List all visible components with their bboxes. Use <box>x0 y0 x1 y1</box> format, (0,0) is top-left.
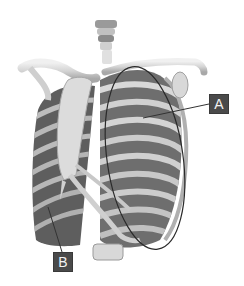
label-a: A <box>209 94 229 114</box>
label-a-text: A <box>214 96 223 112</box>
cervical-spine <box>95 20 117 64</box>
lumbar-vertebra <box>93 244 123 260</box>
label-b: B <box>53 252 73 272</box>
label-b-text: B <box>58 254 67 270</box>
rib-cage-diagram <box>0 0 244 286</box>
